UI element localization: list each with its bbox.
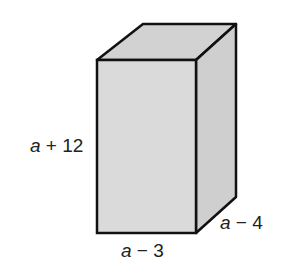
- height-constant: 12: [62, 135, 83, 156]
- width-constant: 3: [153, 240, 164, 261]
- height-operator: +: [46, 135, 57, 156]
- depth-variable: a: [220, 212, 231, 233]
- depth-operator: −: [236, 212, 247, 233]
- rectangular-prism-diagram: a + 12 a − 3 a − 4: [0, 0, 288, 278]
- prism-front-face: [97, 60, 196, 233]
- width-operator: −: [137, 240, 148, 261]
- depth-constant: 4: [252, 212, 263, 233]
- prism-side-face: [196, 24, 236, 233]
- width-label: a − 3: [121, 241, 164, 260]
- width-variable: a: [121, 240, 132, 261]
- depth-label: a − 4: [220, 213, 263, 232]
- height-label: a + 12: [30, 136, 83, 155]
- height-variable: a: [30, 135, 41, 156]
